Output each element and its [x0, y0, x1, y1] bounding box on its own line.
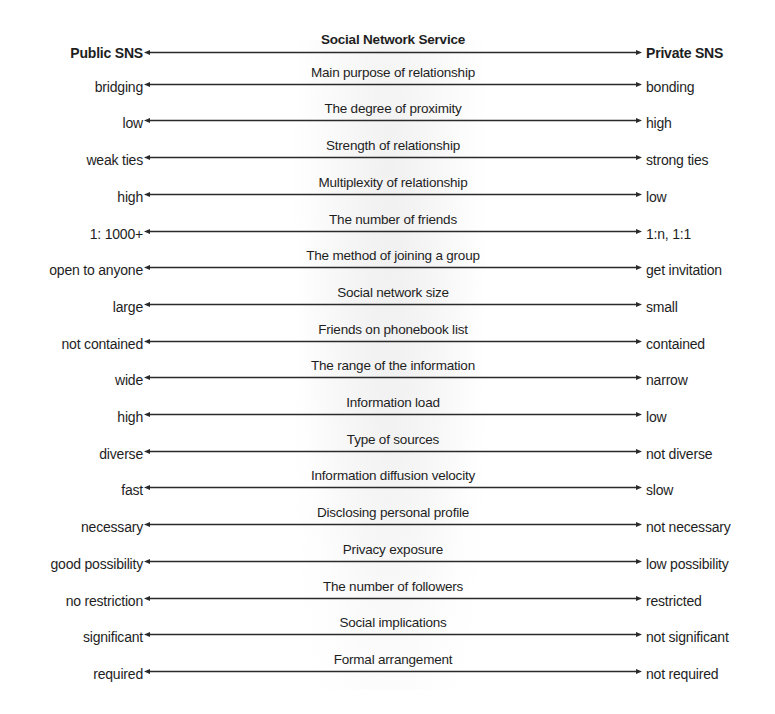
- comparison-row: Type of sources diverse not diverse: [0, 435, 775, 466]
- dimension-label: The method of joining a group: [144, 248, 642, 264]
- comparison-row: Information load high low: [0, 398, 775, 429]
- double-headed-arrow-icon: [144, 116, 642, 125]
- double-headed-arrow-icon: [144, 80, 642, 89]
- private-value: narrow: [646, 372, 688, 388]
- private-value: low possibility: [646, 556, 729, 572]
- comparison-row: Social network size large small: [0, 288, 775, 319]
- public-value: high: [117, 189, 143, 205]
- private-value: not necessary: [646, 519, 731, 535]
- dimension-label: Social network size: [144, 285, 642, 301]
- public-sns-label: Public SNS: [70, 45, 143, 61]
- public-value: no restriction: [66, 593, 143, 609]
- private-value: not diverse: [646, 446, 712, 462]
- comparison-row: The range of the information wide narrow: [0, 361, 775, 392]
- private-value: small: [646, 299, 678, 315]
- comparison-row: The number of friends 1: 1000+ 1:n, 1:1: [0, 215, 775, 246]
- dimension-label: Strength of relationship: [144, 138, 642, 154]
- comparison-row: Main purpose of relationship bridging bo…: [0, 68, 775, 99]
- public-value: wide: [115, 372, 143, 388]
- private-value: restricted: [646, 593, 702, 609]
- dimension-label: Type of sources: [144, 432, 642, 448]
- double-headed-arrow-icon: [144, 153, 642, 162]
- header-row: Social Network Service Public SNS Privat…: [0, 36, 775, 67]
- diagram-title: Social Network Service: [144, 32, 642, 48]
- public-value: low: [123, 115, 143, 131]
- private-value: get invitation: [646, 262, 722, 278]
- dimension-label: Social implications: [144, 615, 642, 631]
- double-headed-arrow-icon: [144, 557, 642, 566]
- dimension-label: Privacy exposure: [144, 542, 642, 558]
- private-value: not required: [646, 666, 718, 682]
- public-value: high: [117, 409, 143, 425]
- public-value: bridging: [95, 79, 143, 95]
- private-value: high: [646, 115, 672, 131]
- comparison-row: The method of joining a group open to an…: [0, 251, 775, 282]
- double-headed-arrow-icon: [144, 520, 642, 529]
- dimension-label: Disclosing personal profile: [144, 505, 642, 521]
- public-value: required: [93, 666, 143, 682]
- comparison-row: Multiplexity of relationship high low: [0, 178, 775, 209]
- public-value: 1: 1000+: [90, 226, 143, 242]
- double-headed-arrow-icon: [144, 300, 642, 309]
- dimension-label: Multiplexity of relationship: [144, 175, 642, 191]
- double-headed-arrow-icon: [144, 190, 642, 199]
- comparison-row: The degree of proximity low high: [0, 104, 775, 135]
- double-headed-arrow-icon: [144, 410, 642, 419]
- dimension-label: Friends on phonebook list: [144, 322, 642, 338]
- double-headed-arrow-icon: [144, 667, 642, 676]
- public-value: weak ties: [86, 152, 143, 168]
- dimension-label: Main purpose of relationship: [144, 65, 642, 81]
- dimension-label: Information diffusion velocity: [144, 468, 642, 484]
- double-headed-arrow-icon: [144, 337, 642, 346]
- private-value: contained: [646, 336, 705, 352]
- comparison-row: Formal arrangement required not required: [0, 655, 775, 686]
- public-value: good possibility: [50, 556, 143, 572]
- double-headed-arrow-icon: [144, 630, 642, 639]
- private-value: low: [646, 409, 666, 425]
- dimension-label: Formal arrangement: [144, 652, 642, 668]
- public-value: diverse: [99, 446, 143, 462]
- comparison-row: Disclosing personal profile necessary no…: [0, 508, 775, 539]
- public-value: significant: [83, 629, 143, 645]
- dimension-label: The degree of proximity: [144, 101, 642, 117]
- dimension-label: The number of followers: [144, 579, 642, 595]
- comparison-row: The number of followers no restriction r…: [0, 582, 775, 613]
- private-sns-label: Private SNS: [646, 45, 723, 61]
- double-headed-arrow-icon: [144, 594, 642, 603]
- comparison-row: Information diffusion velocity fast slow: [0, 471, 775, 502]
- public-value: necessary: [81, 519, 143, 535]
- double-headed-arrow-icon: [144, 447, 642, 456]
- private-value: slow: [646, 482, 673, 498]
- public-value: fast: [121, 482, 143, 498]
- private-value: bonding: [646, 79, 694, 95]
- double-headed-arrow-icon: [144, 227, 642, 236]
- private-value: not significant: [646, 629, 729, 645]
- double-headed-arrow-icon: [144, 263, 642, 272]
- private-value: low: [646, 189, 666, 205]
- comparison-row: Social implications significant not sign…: [0, 618, 775, 649]
- comparison-row: Strength of relationship weak ties stron…: [0, 141, 775, 172]
- public-value: open to anyone: [49, 262, 143, 278]
- public-value: large: [113, 299, 143, 315]
- public-value: not contained: [62, 336, 143, 352]
- dimension-label: The number of friends: [144, 212, 642, 228]
- comparison-row: Friends on phonebook list not contained …: [0, 325, 775, 356]
- dimension-label: Information load: [144, 395, 642, 411]
- private-value: 1:n, 1:1: [646, 226, 691, 242]
- private-value: strong ties: [646, 152, 708, 168]
- double-headed-arrow-icon: [144, 48, 642, 57]
- dimension-label: The range of the information: [144, 358, 642, 374]
- double-headed-arrow-icon: [144, 483, 642, 492]
- comparison-row: Privacy exposure good possibility low po…: [0, 545, 775, 576]
- double-headed-arrow-icon: [144, 373, 642, 382]
